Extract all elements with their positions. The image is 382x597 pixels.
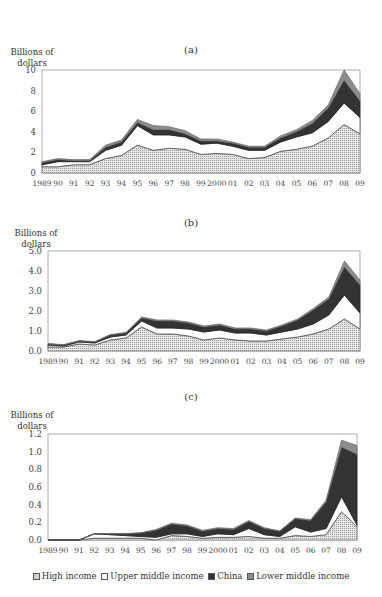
legend-item-high-income: High income xyxy=(33,571,97,581)
svg-text:1989: 1989 xyxy=(32,179,51,188)
svg-text:99: 99 xyxy=(196,179,206,188)
svg-text:95: 95 xyxy=(137,357,147,366)
svg-text:90: 90 xyxy=(59,546,69,555)
svg-text:90: 90 xyxy=(53,179,63,188)
svg-text:02: 02 xyxy=(244,546,254,555)
svg-text:1.0: 1.0 xyxy=(28,447,42,457)
svg-text:1.0: 1.0 xyxy=(28,326,42,336)
svg-text:0: 0 xyxy=(31,168,36,178)
svg-text:90: 90 xyxy=(59,357,69,366)
dotted-swatch-icon xyxy=(33,573,40,580)
svg-text:03: 03 xyxy=(260,546,270,555)
svg-text:0.8: 0.8 xyxy=(28,464,42,474)
svg-text:04: 04 xyxy=(275,546,285,555)
svg-text:2000: 2000 xyxy=(208,546,227,555)
svg-text:08: 08 xyxy=(339,179,349,188)
legend: High income Upper middle income China Lo… xyxy=(0,571,382,582)
svg-text:05: 05 xyxy=(292,179,302,188)
svg-text:2000: 2000 xyxy=(210,357,229,366)
svg-text:4.0: 4.0 xyxy=(28,266,42,276)
svg-text:2000: 2000 xyxy=(207,179,226,188)
svg-text:91: 91 xyxy=(74,357,84,366)
svg-text:95: 95 xyxy=(136,546,146,555)
chart-b: 0.01.02.03.04.05.01989909192939495969798… xyxy=(28,246,365,366)
svg-text:94: 94 xyxy=(121,357,131,366)
gray-swatch-icon xyxy=(247,573,254,580)
svg-text:08: 08 xyxy=(340,357,350,366)
svg-text:07: 07 xyxy=(324,357,334,366)
svg-text:0.0: 0.0 xyxy=(28,346,42,356)
legend-item-upper-middle-income: Upper middle income xyxy=(101,571,203,581)
svg-text:0.6: 0.6 xyxy=(28,482,42,492)
svg-text:01: 01 xyxy=(230,357,240,366)
chart-c: 0.00.20.40.60.81.01.21989909192939495969… xyxy=(28,429,362,555)
svg-text:96: 96 xyxy=(152,357,162,366)
white-swatch-icon xyxy=(101,573,108,580)
svg-text:97: 97 xyxy=(168,357,178,366)
svg-text:09: 09 xyxy=(352,546,362,555)
svg-text:96: 96 xyxy=(151,546,161,555)
svg-text:07: 07 xyxy=(323,179,333,188)
svg-text:92: 92 xyxy=(85,179,95,188)
svg-text:93: 93 xyxy=(105,546,115,555)
svg-text:4: 4 xyxy=(31,127,36,137)
svg-text:99: 99 xyxy=(198,546,208,555)
svg-text:1.2: 1.2 xyxy=(28,429,42,439)
svg-text:07: 07 xyxy=(321,546,331,555)
svg-text:09: 09 xyxy=(355,179,365,188)
black-swatch-icon xyxy=(208,573,215,580)
svg-text:6: 6 xyxy=(31,106,36,116)
svg-text:06: 06 xyxy=(306,546,316,555)
stacked-area-charts: 0246810198990919293949596979899200001020… xyxy=(0,0,382,597)
svg-text:97: 97 xyxy=(167,546,177,555)
legend-item-china: China xyxy=(208,571,242,581)
svg-text:99: 99 xyxy=(199,357,209,366)
svg-text:05: 05 xyxy=(290,546,300,555)
svg-text:92: 92 xyxy=(90,546,100,555)
svg-text:04: 04 xyxy=(276,179,286,188)
svg-text:8: 8 xyxy=(31,86,36,96)
svg-text:10: 10 xyxy=(25,65,36,75)
svg-text:98: 98 xyxy=(184,357,194,366)
svg-text:91: 91 xyxy=(69,179,79,188)
svg-text:09: 09 xyxy=(355,357,365,366)
svg-text:3.0: 3.0 xyxy=(28,286,42,296)
svg-text:94: 94 xyxy=(120,546,130,555)
svg-text:93: 93 xyxy=(101,179,111,188)
svg-text:08: 08 xyxy=(337,546,347,555)
svg-text:93: 93 xyxy=(106,357,116,366)
svg-text:06: 06 xyxy=(308,357,318,366)
svg-text:96: 96 xyxy=(149,179,159,188)
svg-text:95: 95 xyxy=(133,179,143,188)
svg-text:02: 02 xyxy=(244,179,254,188)
svg-text:97: 97 xyxy=(164,179,174,188)
svg-text:94: 94 xyxy=(117,179,127,188)
svg-text:01: 01 xyxy=(229,546,239,555)
svg-text:5.0: 5.0 xyxy=(28,246,42,256)
svg-text:0.2: 0.2 xyxy=(28,517,42,527)
svg-text:0.4: 0.4 xyxy=(28,500,42,510)
svg-text:98: 98 xyxy=(182,546,192,555)
svg-text:0.0: 0.0 xyxy=(28,535,42,545)
svg-text:04: 04 xyxy=(277,357,287,366)
svg-text:03: 03 xyxy=(260,179,270,188)
svg-text:1989: 1989 xyxy=(38,546,57,555)
svg-text:05: 05 xyxy=(293,357,303,366)
svg-text:91: 91 xyxy=(74,546,84,555)
svg-text:03: 03 xyxy=(262,357,272,366)
svg-text:06: 06 xyxy=(308,179,318,188)
svg-text:02: 02 xyxy=(246,357,256,366)
svg-text:2: 2 xyxy=(31,147,36,157)
svg-text:1989: 1989 xyxy=(38,357,57,366)
svg-text:2.0: 2.0 xyxy=(28,306,42,316)
chart-a: 0246810198990919293949596979899200001020… xyxy=(25,65,365,188)
svg-text:98: 98 xyxy=(180,179,190,188)
svg-text:92: 92 xyxy=(90,357,100,366)
svg-text:01: 01 xyxy=(228,179,238,188)
legend-item-lower-middle-income: Lower middle income xyxy=(247,571,349,581)
